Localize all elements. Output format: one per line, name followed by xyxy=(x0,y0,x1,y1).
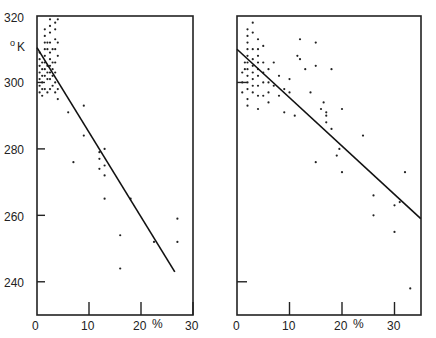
data-point xyxy=(46,91,48,93)
data-point xyxy=(241,91,243,93)
data-point xyxy=(46,71,48,73)
data-point xyxy=(267,81,269,83)
data-point xyxy=(341,171,343,173)
data-point xyxy=(52,61,54,63)
data-point xyxy=(246,105,248,107)
left-x-tick-label-0: 0 xyxy=(32,319,39,333)
data-point xyxy=(309,91,311,93)
data-point xyxy=(336,154,338,156)
data-point xyxy=(252,58,254,60)
data-point xyxy=(325,121,327,123)
data-point xyxy=(57,98,59,100)
data-point xyxy=(49,78,51,80)
data-point xyxy=(267,68,269,70)
data-point xyxy=(104,174,106,176)
data-point xyxy=(54,91,56,93)
data-point xyxy=(257,85,259,87)
data-point xyxy=(246,35,248,37)
data-point xyxy=(404,171,406,173)
data-point xyxy=(44,55,46,57)
right-x-unit-percent: % xyxy=(353,317,364,331)
data-point xyxy=(39,85,41,87)
data-point xyxy=(44,35,46,37)
data-point xyxy=(262,61,264,63)
data-point xyxy=(52,48,54,50)
data-point xyxy=(46,41,48,43)
data-point xyxy=(44,68,46,70)
data-point xyxy=(257,108,259,110)
data-point xyxy=(49,25,51,27)
data-point xyxy=(257,48,259,50)
left-panel: 320 o K 300 280 260 240 0 10 20 % 30 xyxy=(4,11,199,333)
right-x-tick-label-30: 30 xyxy=(387,319,401,333)
data-point xyxy=(44,75,46,77)
left-x-tick-label-20: 20 xyxy=(133,319,147,333)
data-point xyxy=(341,108,343,110)
y-tick-label-240: 240 xyxy=(4,276,24,290)
data-point xyxy=(41,81,43,83)
data-point xyxy=(278,75,280,77)
data-point xyxy=(41,68,43,70)
data-point xyxy=(39,65,41,67)
data-point xyxy=(252,91,254,93)
data-point xyxy=(54,28,56,30)
data-point xyxy=(67,111,69,113)
right-panel: 0 10 20 % 30 xyxy=(233,16,421,333)
data-point xyxy=(41,75,43,77)
y-tick-label-280: 280 xyxy=(4,143,24,157)
data-point xyxy=(299,58,301,60)
data-point xyxy=(54,71,56,73)
data-point xyxy=(39,91,41,93)
data-point xyxy=(39,78,41,80)
y-unit-label: K xyxy=(17,40,25,54)
data-point xyxy=(41,95,43,97)
data-point xyxy=(104,148,106,150)
data-point xyxy=(262,81,264,83)
data-point xyxy=(39,71,41,73)
left-x-tick-label-10: 10 xyxy=(81,319,95,333)
right-fit-line xyxy=(237,49,421,218)
right-x-tick-label-20: 20 xyxy=(334,319,348,333)
data-point xyxy=(257,61,259,63)
data-point xyxy=(44,88,46,90)
data-point xyxy=(288,78,290,80)
data-point xyxy=(244,61,246,63)
data-point xyxy=(57,55,59,57)
data-point xyxy=(246,75,248,77)
right-x-tick-label-0: 0 xyxy=(233,319,240,333)
data-point xyxy=(246,41,248,43)
data-point xyxy=(252,48,254,50)
data-point xyxy=(246,98,248,100)
left-plot-frame xyxy=(37,16,193,315)
data-point xyxy=(244,68,246,70)
data-point xyxy=(315,65,317,67)
data-point xyxy=(283,111,285,113)
data-point xyxy=(299,38,301,40)
data-point xyxy=(393,231,395,233)
data-point xyxy=(98,158,100,160)
y-tick-label-300: 300 xyxy=(4,76,24,90)
data-point xyxy=(262,95,264,97)
data-point xyxy=(54,38,56,40)
data-point xyxy=(372,214,374,216)
data-point xyxy=(104,198,106,200)
data-point xyxy=(362,135,364,137)
data-point xyxy=(296,55,298,57)
data-point xyxy=(267,101,269,103)
data-point xyxy=(246,81,248,83)
y-tick-label-320: 320 xyxy=(4,11,24,25)
data-point xyxy=(338,148,340,150)
data-point xyxy=(241,71,243,73)
data-point xyxy=(49,41,51,43)
data-point xyxy=(39,58,41,60)
data-point xyxy=(54,48,56,50)
data-point xyxy=(246,68,248,70)
chart-canvas: 320 o K 300 280 260 240 0 10 20 % 30 0 1… xyxy=(0,0,436,338)
y-tick-label-260: 260 xyxy=(4,210,24,224)
data-point xyxy=(273,61,275,63)
data-point xyxy=(278,95,280,97)
left-x-unit-percent: % xyxy=(152,317,163,331)
data-point xyxy=(283,88,285,90)
right-scatter-points xyxy=(241,22,411,290)
data-point xyxy=(252,32,254,34)
